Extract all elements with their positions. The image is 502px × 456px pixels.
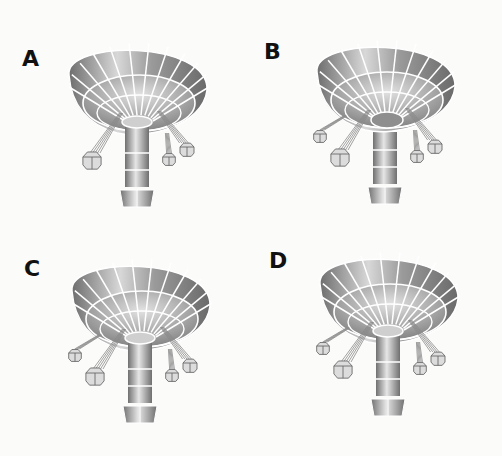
- pole: [373, 132, 397, 184]
- swing-ride-illustration: [0, 228, 251, 456]
- swing-ride-illustration: [0, 0, 251, 228]
- swing-ride-illustration: [251, 228, 502, 456]
- option-panel-b[interactable]: B: [251, 0, 502, 228]
- pole-collar: [373, 325, 403, 337]
- option-panel-d[interactable]: D: [251, 228, 502, 456]
- swing-ride-illustration: [251, 0, 502, 228]
- pole: [376, 344, 400, 396]
- option-panel-c[interactable]: C: [0, 228, 251, 456]
- pole: [125, 135, 149, 187]
- pole: [128, 351, 152, 403]
- canopy-hub: [371, 112, 403, 128]
- pole-collar: [122, 116, 152, 128]
- pole-collar: [125, 332, 155, 344]
- option-panel-a[interactable]: A: [0, 0, 251, 228]
